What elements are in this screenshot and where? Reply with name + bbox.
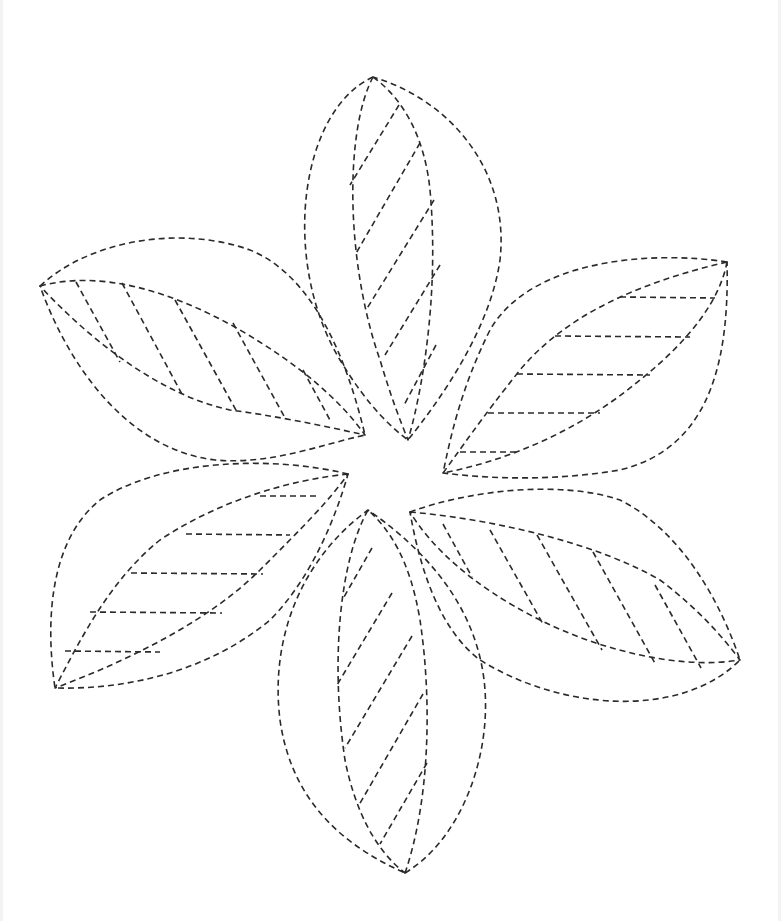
petal-hatch-line: [303, 370, 330, 420]
petal-hatch-line: [537, 535, 602, 650]
petal-hatch-line: [517, 374, 650, 375]
petal-upper-left: [40, 238, 365, 461]
petal-hatch-line: [443, 524, 472, 577]
petal-hatch-line: [380, 763, 427, 844]
petal-hatch-line: [186, 534, 290, 535]
petal-hatch-line: [337, 593, 392, 685]
petal-outer-outline: [410, 489, 740, 701]
petal-inner-leaf-outline: [353, 77, 433, 440]
petal-inner-leaf-outline: [55, 474, 348, 688]
petal-outer-outline: [40, 238, 365, 461]
petal-hatch-line: [65, 651, 160, 652]
petal-lower-left: [51, 463, 348, 688]
petal-outer-outline: [51, 463, 348, 688]
petal-hatch-line: [359, 694, 423, 805]
petal-inner-leaf-outline: [338, 510, 427, 873]
petal-inner-leaf-outline: [443, 262, 727, 473]
petal-hatch-line: [90, 612, 222, 613]
petal-hatch-line: [555, 336, 690, 337]
petal-hatch-line: [385, 265, 440, 355]
petal-upper-right: [443, 258, 727, 478]
petal-hatch-line: [620, 297, 715, 298]
petal-hatch-line: [655, 585, 701, 668]
petal-hatch-line: [233, 323, 285, 418]
petal-hatch-line: [175, 300, 237, 412]
petal-hatch-line: [344, 548, 372, 597]
petal-outer-outline: [305, 77, 501, 440]
flower-drawing: [0, 0, 781, 921]
petals-group: [40, 77, 740, 873]
petal-hatch-line: [131, 573, 263, 574]
petal-outer-outline: [443, 258, 727, 478]
petal-hatch-line: [593, 552, 656, 665]
petal-lower-right: [410, 489, 740, 701]
petal-hatch-line: [76, 282, 120, 362]
petal-top: [305, 77, 501, 440]
petal-hatch-line: [350, 105, 399, 185]
petal-hatch-line: [490, 530, 543, 624]
petal-hatch-line: [366, 200, 434, 310]
petal-hatch-line: [403, 345, 436, 407]
